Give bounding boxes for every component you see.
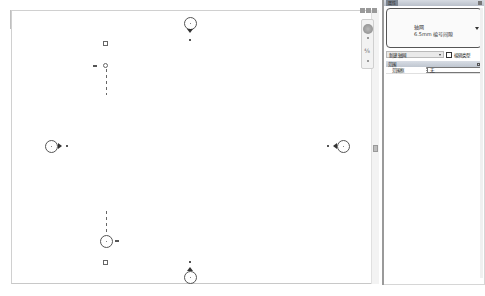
navigation-bar: ⁴⁄₈ (361, 19, 374, 69)
nav-dropdown-icon[interactable] (367, 37, 369, 39)
properties-scrollbar[interactable] (480, 8, 483, 278)
elevation-label-top (93, 65, 97, 67)
chevron-down-icon (439, 54, 441, 56)
grid-label-bottom (189, 261, 191, 263)
type-name: 6.5mm 编号间隙 (414, 30, 453, 37)
view-controls (360, 8, 377, 13)
elevation-line-top (106, 69, 107, 95)
edit-type-label: 编辑类型 (454, 52, 470, 58)
elevation-head-top[interactable] (103, 63, 108, 68)
grid-bubble-left[interactable] (45, 140, 58, 153)
grid-label-left (66, 145, 68, 147)
edit-type-button[interactable]: 编辑类型 (446, 52, 470, 58)
elevation-checkbox-top[interactable] (103, 41, 108, 46)
nav-dropdown-icon[interactable] (367, 60, 369, 62)
minimize-icon[interactable] (360, 8, 365, 13)
elevation-bubble-bottom[interactable] (100, 235, 113, 248)
instance-filter-dropdown[interactable]: 新建 轴网 (386, 51, 444, 58)
drawing-canvas[interactable] (11, 10, 379, 284)
property-key: 范围框 (386, 67, 427, 73)
grid-label-right (327, 145, 329, 147)
properties-title: 属性 (386, 0, 398, 6)
canvas-scroll-thumb[interactable] (373, 145, 378, 152)
properties-title-bar: 属性 (384, 0, 484, 6)
properties-panel: 属性 轴网 6.5mm 编号间隙 新建 轴网 编辑类型 范围 范围框 无 (384, 0, 485, 285)
zoom-icon[interactable]: ⁴⁄₈ (364, 47, 370, 54)
close-icon[interactable] (372, 8, 377, 13)
type-family: 轴网 (414, 23, 424, 30)
grid-bubble-bottom[interactable] (184, 271, 197, 284)
elevation-line-bottom (106, 211, 107, 235)
close-icon[interactable] (478, 1, 482, 5)
property-value-input[interactable]: 无 (427, 67, 482, 73)
property-row: 范围框 无 (386, 67, 482, 74)
restore-icon[interactable] (366, 8, 371, 13)
edit-type-icon (446, 52, 452, 58)
elevation-label-bottom (115, 240, 119, 242)
grid-head-arrow-icon (187, 29, 193, 33)
steering-wheel-icon[interactable] (363, 24, 373, 34)
canvas-frame-edge (10, 10, 11, 29)
grid-head-arrow-icon (58, 143, 62, 149)
elevation-checkbox-bottom[interactable] (103, 260, 108, 265)
instance-filter-label: 新建 轴网 (389, 52, 406, 58)
app-window: ⁴⁄₈ 属性 轴网 6.5mm 编号间隙 新建 轴网 (0, 0, 485, 296)
grid-label-top (189, 39, 191, 41)
instance-selector-row: 新建 轴网 编辑类型 (386, 51, 482, 58)
type-selector[interactable]: 轴网 6.5mm 编号间隙 (386, 8, 482, 48)
chevron-down-icon[interactable] (475, 27, 479, 30)
grid-bubble-right[interactable] (337, 140, 350, 153)
